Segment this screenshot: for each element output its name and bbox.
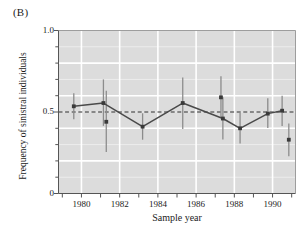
data-point-marker — [280, 109, 284, 113]
y-tick-label: 1.0 — [12, 25, 54, 35]
x-tick-label: 1988 — [214, 199, 254, 209]
data-point-marker — [102, 101, 106, 105]
data-point-marker — [72, 104, 76, 108]
data-point-marker — [141, 125, 145, 129]
data-point-marker — [221, 117, 225, 121]
x-tick-label: 1990 — [253, 199, 293, 209]
data-point-marker — [266, 112, 270, 116]
data-point-marker-extra — [219, 95, 223, 99]
data-point-marker-extra — [104, 120, 108, 124]
x-tick-label: 1986 — [176, 199, 216, 209]
x-tick-label: 1982 — [100, 199, 140, 209]
y-tick-label: 0.5 — [12, 106, 54, 116]
x-tick-label: 1984 — [138, 199, 178, 209]
data-point-marker — [181, 101, 185, 105]
y-tick-label: 0 — [12, 188, 54, 198]
data-point-marker-extra — [287, 138, 291, 142]
data-point-marker — [238, 126, 242, 130]
figure-panel-b: (B) Frequency of sinistral individuals S… — [0, 0, 298, 240]
x-tick-label: 1980 — [61, 199, 101, 209]
